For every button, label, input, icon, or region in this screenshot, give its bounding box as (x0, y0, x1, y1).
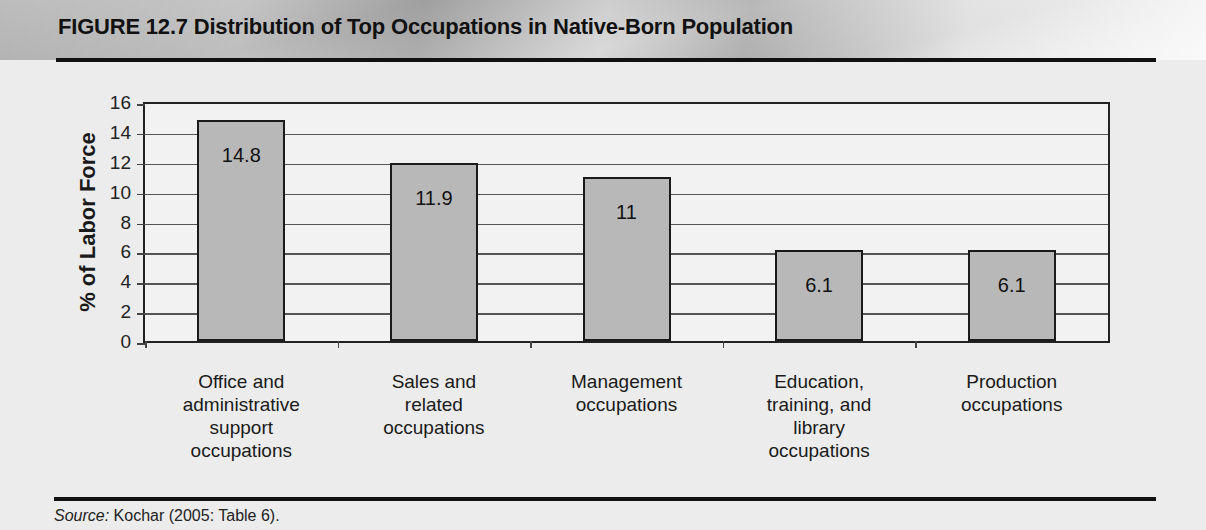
x-tick-mark (915, 341, 917, 348)
y-tick-mark (137, 224, 145, 226)
bar-value-label: 11 (585, 201, 669, 224)
y-tick-mark (137, 343, 145, 345)
y-tick-mark (137, 253, 145, 255)
bar: 6.1 (968, 250, 1056, 341)
x-tick-mark (338, 341, 340, 348)
source-text: Kochar (2005: Table 6). (109, 507, 279, 524)
bar: 14.8 (197, 120, 285, 341)
y-tick-label: 16 (91, 92, 131, 114)
figure-title: FIGURE 12.7 Distribution of Top Occupati… (58, 14, 793, 40)
bar: 11.9 (390, 163, 478, 341)
y-tick-mark (137, 194, 145, 196)
x-category-label: Production occupations (927, 370, 1097, 416)
bar: 6.1 (775, 250, 863, 341)
bar-value-label: 14.8 (199, 144, 283, 167)
y-tick-label: 10 (91, 182, 131, 204)
source-prefix: Source: (54, 507, 109, 524)
y-tick-label: 8 (91, 212, 131, 234)
x-category-label: Sales and related occupations (349, 370, 519, 439)
bar-value-label: 11.9 (392, 187, 476, 210)
y-tick-label: 12 (91, 152, 131, 174)
source-note: Source: Kochar (2005: Table 6). (54, 507, 280, 525)
y-tick-label: 0 (91, 331, 131, 353)
plot-area: 14.811.9116.16.1 (143, 102, 1110, 343)
gridline (145, 134, 1108, 136)
y-tick-label: 6 (91, 241, 131, 263)
top-rule (56, 58, 1156, 62)
y-tick-mark (137, 283, 145, 285)
y-tick-mark (137, 134, 145, 136)
y-tick-mark (137, 313, 145, 315)
gridline (145, 164, 1108, 166)
y-tick-label: 14 (91, 122, 131, 144)
y-tick-mark (137, 164, 145, 166)
x-tick-mark (145, 341, 147, 348)
bar-value-label: 6.1 (777, 274, 861, 297)
x-tick-mark (723, 341, 725, 348)
x-category-label: Office and administrative support occupa… (156, 370, 326, 462)
title-band: FIGURE 12.7 Distribution of Top Occupati… (0, 0, 1206, 60)
x-category-label: Management occupations (542, 370, 712, 416)
x-category-label: Education, training, and library occupat… (734, 370, 904, 462)
bar-value-label: 6.1 (970, 274, 1054, 297)
y-tick-label: 4 (91, 271, 131, 293)
y-tick-mark (137, 104, 145, 106)
y-tick-label: 2 (91, 301, 131, 323)
bottom-rule (54, 497, 1156, 501)
bar: 11 (583, 177, 671, 341)
x-tick-mark (530, 341, 532, 348)
